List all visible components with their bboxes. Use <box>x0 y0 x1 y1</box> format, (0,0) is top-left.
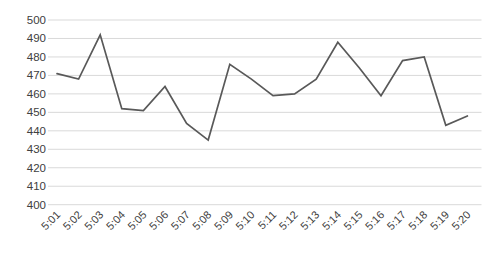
x-tick-label: 5:20 <box>449 208 473 232</box>
x-tick-label: 5:01 <box>39 208 63 232</box>
y-tick-label: 420 <box>27 162 46 174</box>
y-tick-label: 400 <box>27 199 46 211</box>
y-tick-label: 500 <box>27 14 46 26</box>
x-tick-label: 5:19 <box>428 208 452 232</box>
x-tick-label: 5:04 <box>104 208 128 232</box>
y-tick-label: 490 <box>27 32 46 44</box>
x-tick-label: 5:05 <box>125 208 149 232</box>
x-tick-label: 5:09 <box>212 208 236 232</box>
data-series-line <box>57 35 467 140</box>
y-tick-label: 440 <box>27 125 46 137</box>
line-chart-canvas: 4004104204304404504604704804905005:015:0… <box>0 0 494 255</box>
x-tick-label: 5:08 <box>190 208 214 232</box>
x-tick-label: 5:17 <box>384 208 408 232</box>
y-tick-label: 470 <box>27 69 46 81</box>
x-tick-label: 5:10 <box>233 208 257 232</box>
x-tick-label: 5:06 <box>147 208 171 232</box>
y-tick-label: 450 <box>27 106 46 118</box>
x-tick-label: 5:03 <box>82 208 106 232</box>
x-tick-label: 5:07 <box>168 208 192 232</box>
x-tick-label: 5:18 <box>406 208 430 232</box>
y-tick-label: 480 <box>27 51 46 63</box>
x-tick-label: 5:15 <box>341 208 365 232</box>
y-tick-label: 430 <box>27 143 46 155</box>
y-tick-label: 460 <box>27 88 46 100</box>
x-tick-label: 5:11 <box>255 208 278 231</box>
x-tick-label: 5:13 <box>298 208 322 232</box>
line-chart-container: 4004104204304404504604704804905005:015:0… <box>0 0 494 255</box>
x-tick-label: 5:14 <box>320 208 344 232</box>
x-tick-label: 5:02 <box>60 208 84 232</box>
x-tick-label: 5:16 <box>363 208 387 232</box>
y-tick-label: 410 <box>27 180 46 192</box>
x-tick-label: 5:12 <box>276 208 300 232</box>
